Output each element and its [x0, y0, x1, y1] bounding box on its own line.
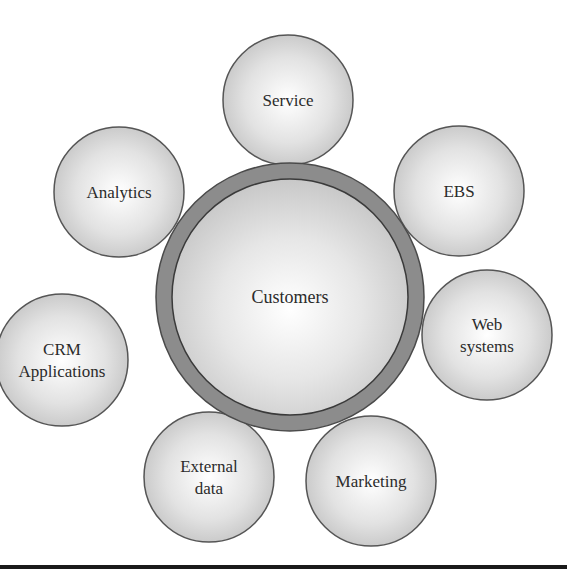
node-circle: [144, 412, 274, 542]
customer-hub-diagram: ServiceEBSWebsystemsMarketingExternaldat…: [0, 0, 567, 581]
node-label: Service: [263, 91, 314, 110]
node-service: Service: [223, 35, 353, 165]
node-circle: [422, 270, 552, 400]
node-label: Applications: [19, 362, 106, 381]
node-label: data: [195, 479, 224, 498]
bottom-rule: [0, 565, 567, 569]
node-label: Web: [472, 315, 503, 334]
node-external-data: Externaldata: [144, 412, 274, 542]
node-circle: [0, 294, 128, 426]
node-label: systems: [460, 337, 514, 356]
node-label: EBS: [443, 182, 474, 201]
node-crm-applications: CRMApplications: [0, 294, 128, 426]
node-label: Analytics: [86, 183, 151, 202]
node-marketing: Marketing: [306, 416, 436, 546]
node-label: CRM: [43, 340, 81, 359]
node-label: External: [180, 457, 238, 476]
node-label: Marketing: [336, 472, 407, 491]
center-node: Customers: [156, 163, 424, 431]
center-label: Customers: [251, 287, 328, 307]
node-analytics: Analytics: [54, 127, 184, 257]
node-web-systems: Websystems: [422, 270, 552, 400]
node-ebs: EBS: [394, 126, 524, 256]
